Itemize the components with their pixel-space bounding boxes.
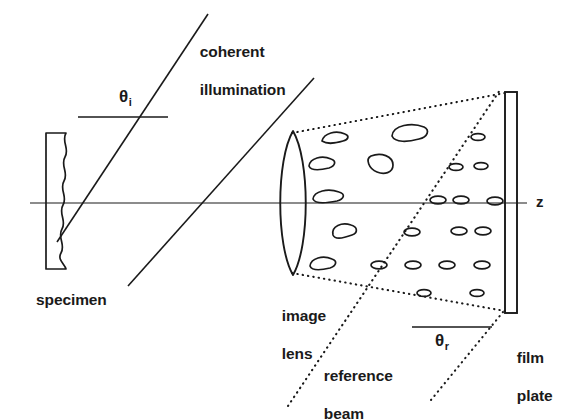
speckle-blob: [313, 190, 343, 202]
speckle-blob: [474, 163, 488, 170]
label-axis-z: z: [536, 193, 543, 211]
label-reference: reference: [324, 367, 393, 384]
theta-i-symbol: θ: [119, 87, 128, 106]
speckle-blob: [309, 157, 335, 169]
label-coherent-line1: coherent: [200, 43, 265, 60]
theta-r-subscript: r: [445, 340, 449, 352]
speckle-blob: [475, 227, 491, 235]
speckle-blob: [449, 164, 463, 171]
speckle-field: [309, 125, 503, 297]
speckle-blob: [487, 197, 503, 205]
label-image: image: [282, 307, 326, 324]
label-plate: plate: [517, 387, 553, 404]
speckle-blob: [333, 224, 357, 238]
speckle-blob: [322, 132, 348, 143]
specimen-shape: [46, 133, 67, 269]
speckle-blob: [310, 257, 336, 269]
label-coherent-line2: illumination: [200, 81, 286, 98]
speckle-blob: [474, 261, 490, 269]
theta-i-subscript: i: [129, 96, 132, 108]
speckle-blob: [417, 290, 431, 297]
label-theta-i: θi: [119, 87, 131, 107]
speckle-blob: [470, 290, 484, 297]
speckle-blob: [439, 261, 455, 269]
speckle-blob: [451, 227, 467, 235]
speckle-blob: [371, 261, 387, 269]
label-reference-beam: reference beam: [307, 348, 393, 420]
speckle-blob: [405, 261, 421, 269]
label-film-plate: film plate: [500, 330, 553, 420]
label-theta-r: θr: [435, 331, 448, 351]
speckle-blob: [404, 228, 420, 236]
label-beam: beam: [324, 405, 364, 420]
label-specimen: specimen: [36, 291, 107, 310]
optics-diagram: specimen coherent illumination image len…: [0, 0, 566, 420]
speckle-blob: [392, 125, 427, 142]
speckle-blob: [471, 134, 485, 141]
theta-r-symbol: θ: [435, 331, 444, 350]
label-coherent-illumination: coherent illumination: [183, 24, 286, 119]
label-film: film: [517, 349, 544, 366]
speckle-blob: [368, 154, 393, 173]
